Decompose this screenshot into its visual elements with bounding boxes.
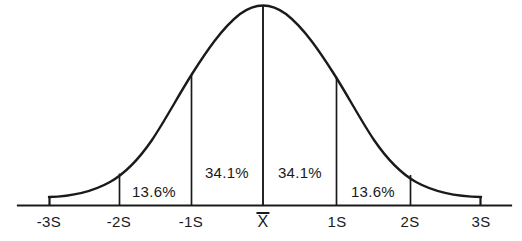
band-label-right-inner: 34.1%: [278, 164, 322, 181]
axis-tick-label-plus-1s: 1S: [327, 213, 346, 230]
bell-curve-graphic: [0, 0, 522, 241]
axis-tick-label-plus-3s: 3S: [471, 213, 490, 230]
axis-tick-label-minus-1s: -1S: [179, 213, 204, 230]
axis-tick-label-minus-3s: -3S: [37, 213, 62, 230]
axis-tick-label-minus-2s: -2S: [107, 213, 132, 230]
axis-tick-label-mean: X: [257, 212, 268, 231]
bell-curve-path: [49, 6, 481, 198]
band-label-right-outer: 13.6%: [351, 183, 395, 200]
band-label-left-outer: 13.6%: [132, 183, 176, 200]
mean-symbol-overbar: X: [257, 212, 268, 231]
axis-tick-label-plus-2s: 2S: [400, 213, 419, 230]
normal-distribution-chart: 13.6% 34.1% 34.1% 13.6% -3S -2S -1S X 1S…: [0, 0, 522, 241]
band-label-left-inner: 34.1%: [205, 164, 249, 181]
